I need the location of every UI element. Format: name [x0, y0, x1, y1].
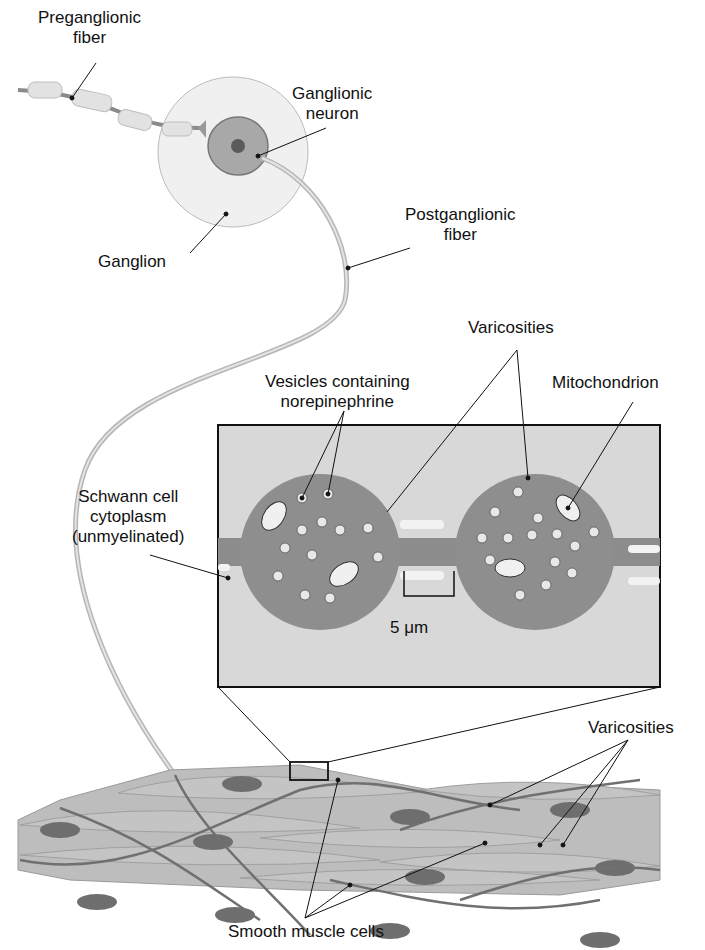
label-postganglionic-fiber: Postganglionic fiber	[405, 205, 516, 245]
label-varicosities-tissue: Varicosities	[588, 718, 674, 738]
label-line: Preganglionic	[38, 8, 141, 28]
label-line: Ganglionic	[292, 84, 372, 104]
ganglionic-neuron	[208, 117, 268, 175]
label-line: cytoplasm	[72, 507, 184, 527]
label-line: norepinephrine	[265, 392, 410, 412]
label-varicosities-inset: Varicosities	[468, 318, 554, 338]
label-line: (unmyelinated)	[72, 527, 184, 547]
label-mitochondrion: Mitochondrion	[552, 373, 659, 393]
label-line: neuron	[292, 104, 372, 124]
label-line: fiber	[38, 28, 141, 48]
label-line: Vesicles containing	[265, 372, 410, 392]
label-line: fiber	[405, 225, 516, 245]
label-smooth-muscle-cells: Smooth muscle cells	[228, 922, 384, 942]
label-scale-bar: 5 μm	[390, 618, 428, 638]
label-ganglion: Ganglion	[98, 252, 166, 272]
label-ganglionic-neuron: Ganglionic neuron	[292, 84, 372, 124]
label-line: Postganglionic	[405, 205, 516, 225]
label-schwann-cell: Schwann cell cytoplasm (unmyelinated)	[72, 487, 184, 547]
label-preganglionic-fiber: Preganglionic fiber	[38, 8, 141, 48]
label-line: Schwann cell	[72, 487, 184, 507]
varicosity-inset	[218, 425, 660, 687]
neuroeffector-diagram	[0, 0, 705, 950]
smooth-muscle-tissue	[18, 762, 660, 948]
label-vesicles-norepinephrine: Vesicles containing norepinephrine	[265, 372, 410, 412]
